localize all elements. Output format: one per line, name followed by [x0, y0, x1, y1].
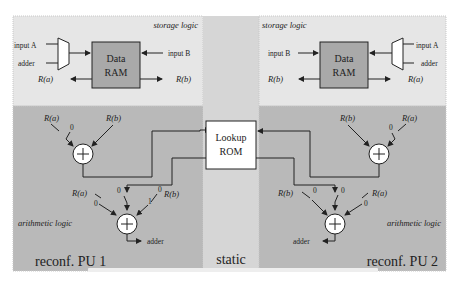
right-adder2-zero-a: 0: [364, 199, 368, 208]
right-adder2-zero-b: 0: [313, 186, 317, 195]
left-out-ra: R(a): [37, 74, 53, 84]
right-adder2-zero-mid: 0: [341, 186, 345, 195]
left-mux-icon: [58, 38, 69, 70]
left-ram-line2: RAM: [105, 67, 128, 78]
right-out-rb: R(b): [267, 74, 283, 84]
left-adder2-zero-a: 0: [94, 199, 98, 208]
left-adder2-rb: R(b): [163, 189, 179, 199]
right-pu-label: reconf. PU 2: [367, 254, 438, 269]
left-adder1-rb: R(b): [105, 113, 121, 123]
left-pu-label: reconf. PU 1: [35, 254, 106, 269]
left-adder1-zero: 0: [70, 123, 74, 132]
right-out-ra: R(a): [407, 74, 423, 84]
lookup-rom: [206, 121, 256, 169]
faint-caption-bar: [88, 268, 378, 272]
left-out-rb: R(b): [175, 74, 191, 84]
rom-line1: Lookup: [215, 132, 246, 143]
left-adder2-zero-b: 0: [158, 185, 162, 194]
right-adder1-rb: R(b): [339, 113, 355, 123]
left-input-b: input B: [168, 49, 190, 58]
right-ram-line1: Data: [335, 53, 354, 64]
right-data-ram: [320, 42, 368, 88]
architecture-diagram: storage logic input A adder Data RAM inp…: [0, 0, 460, 282]
right-mux-icon: [392, 38, 403, 70]
left-data-ram: [92, 42, 140, 88]
left-adder2-zero-mid: 0: [117, 186, 121, 195]
right-arith-title: arithmetic logic: [387, 218, 441, 228]
left-ram-line1: Data: [107, 53, 126, 64]
right-adder2-rb: R(b): [277, 188, 293, 198]
left-storage-title: storage logic: [153, 20, 198, 30]
right-adder1-ra: R(a): [401, 113, 417, 123]
left-arith-title: arithmetic logic: [18, 218, 72, 228]
left-adder2-ra: R(a): [71, 188, 87, 198]
right-mux-input-adder: adder: [421, 59, 438, 68]
static-label: static: [216, 252, 246, 267]
right-mux-input-a: input A: [416, 41, 439, 50]
left-mux-input-a: input A: [14, 41, 37, 50]
right-input-b: input B: [268, 49, 290, 58]
left-mux-input-adder: adder: [18, 59, 35, 68]
right-adder2-ra: R(a): [371, 188, 387, 198]
left-adder2-out: adder: [147, 237, 164, 246]
left-adder1-ra: R(a): [43, 113, 59, 123]
right-ram-line2: RAM: [333, 67, 356, 78]
right-adder1-zero: 0: [389, 123, 393, 132]
right-storage-title: storage logic: [262, 20, 307, 30]
right-adder2-out: adder: [293, 237, 310, 246]
rom-line2: ROM: [220, 146, 243, 157]
